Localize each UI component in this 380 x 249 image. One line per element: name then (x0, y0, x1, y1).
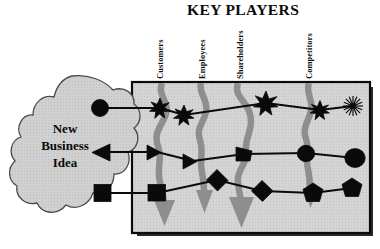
key-players-panel (132, 82, 373, 236)
page-title: KEY PLAYERS (187, 1, 299, 18)
new-business-idea-blob: New Business Idea (10, 76, 140, 213)
blob-line-2: Business (41, 138, 89, 153)
blob-line-1: New (53, 121, 78, 136)
key-players-diagram: KEY PLAYERS Customers Employees Sharehol… (0, 0, 380, 249)
column-label-shareholders: Shareholders (236, 30, 245, 79)
column-labels: Customers Employees Shareholders Competi… (156, 30, 314, 79)
column-label-employees: Employees (198, 39, 207, 79)
source-node-circle (92, 100, 109, 117)
node-burst-outline (343, 96, 363, 116)
node-circle (297, 145, 314, 161)
blob-line-3: Idea (53, 155, 78, 170)
source-node-square (94, 185, 111, 202)
node-circle (345, 149, 365, 168)
column-label-competitors: Competitors (305, 33, 314, 79)
diagram-canvas: KEY PLAYERS Customers Employees Sharehol… (0, 0, 380, 249)
column-label-customers: Customers (156, 39, 165, 79)
